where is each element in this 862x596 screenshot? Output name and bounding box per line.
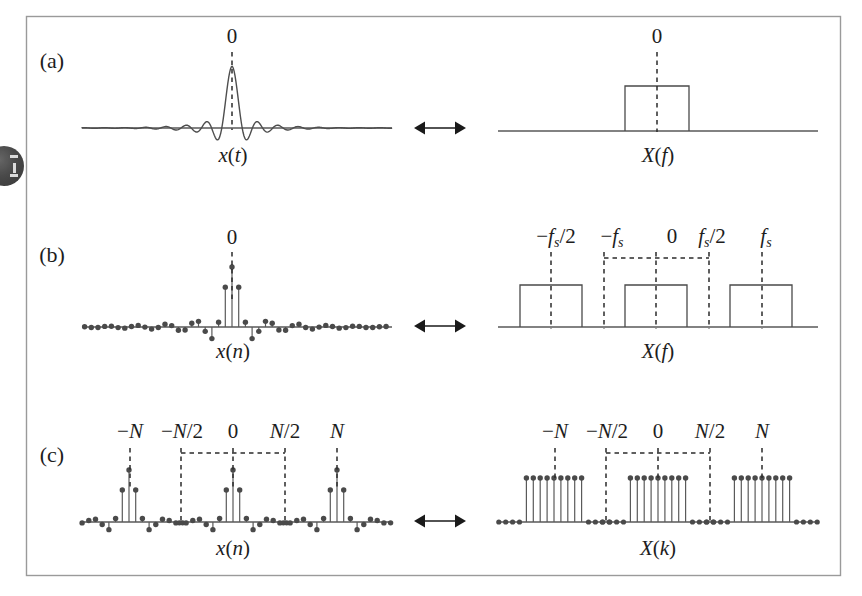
tick-label-3: fs/2	[698, 224, 726, 250]
stem-dot	[115, 325, 120, 330]
periodic-spectrum-rects: −fs−fs/20fs/2fsX(f)	[498, 224, 818, 363]
stem-dot	[780, 475, 785, 480]
stem-dot	[565, 475, 570, 480]
stem-dot	[149, 326, 154, 331]
stem-dot	[257, 522, 262, 527]
stem-dot-zero	[621, 519, 626, 524]
stem-dot	[210, 527, 215, 532]
stem-dot	[160, 517, 165, 522]
continuous-spectrum-rect: 0X(f)	[498, 24, 818, 167]
stem-dot	[176, 328, 181, 333]
dft-spectrum-periodic: −N−N/20N/2NX(k)	[496, 419, 820, 560]
arrow-head-left	[414, 515, 425, 528]
tick-label-2: 0	[228, 419, 239, 443]
stem-dot	[229, 264, 234, 269]
stem-dot-zero	[593, 519, 598, 524]
panel-label-0: (a)	[40, 48, 64, 73]
stem-dot	[153, 522, 158, 527]
stem-dot	[303, 325, 308, 330]
stem-dot	[375, 518, 380, 523]
stem-dot	[190, 518, 195, 523]
stem-dot	[538, 475, 543, 480]
tick-label-1: −N/2	[161, 419, 203, 443]
stem-dot	[109, 324, 114, 329]
stem-dot	[264, 517, 269, 522]
stem-dot	[167, 518, 172, 523]
stem-dot	[773, 475, 778, 480]
stem-dot	[271, 518, 276, 523]
dft-time-sequence-periodic: −N−N/20N/2Nx(n)	[79, 419, 393, 560]
stem-dot	[120, 487, 125, 492]
sampled-time-sequence: 0x(n)	[82, 225, 392, 363]
stem-dot	[558, 475, 563, 480]
tick-label-2: 0	[653, 419, 664, 443]
stem-dot	[388, 520, 393, 525]
stem-dot	[287, 520, 292, 525]
stem-dot	[237, 487, 242, 492]
stem-dot	[354, 527, 359, 532]
stem-dot	[648, 475, 653, 480]
stem-dot	[383, 324, 388, 329]
stem-dot-zero	[718, 519, 723, 524]
stem-dot	[732, 475, 737, 480]
stem-dot	[86, 518, 91, 523]
panel-c: (c)−N−N/20N/2Nx(n)−N−N/20N/2NX(k)	[40, 419, 820, 560]
signal-label-xn: x(n)	[215, 339, 250, 363]
tick-label-4: N	[329, 419, 345, 443]
stem-dot	[204, 522, 209, 527]
stem-dot	[177, 520, 182, 525]
stem-dot	[146, 527, 151, 532]
figure-frame	[27, 17, 841, 576]
stem-dot	[106, 527, 111, 532]
origin-label: 0	[227, 24, 238, 48]
stem-dot	[531, 475, 536, 480]
stem-dot-zero	[690, 519, 695, 524]
figure-canvas: (a)0x(t)0X(f)(b)0x(n)−fs−fs/20fs/2fsX(f)…	[0, 0, 862, 596]
stem-dot	[223, 284, 228, 289]
stem-dot	[350, 324, 355, 329]
tick-label-2: 0	[667, 224, 678, 248]
stem-dot	[368, 517, 373, 522]
signal-label-xt: x(t)	[217, 143, 247, 167]
stem-dot	[752, 475, 757, 480]
stem-dot	[348, 516, 353, 521]
stem-dot	[196, 319, 201, 324]
stem-dot	[363, 325, 368, 330]
tick-label-4: fs	[760, 224, 772, 250]
signal-label-Xk: X(k)	[639, 536, 676, 560]
stem-dot-zero	[704, 519, 709, 524]
stem-dot	[551, 475, 556, 480]
stem-dot	[746, 475, 751, 480]
stem-dot	[197, 517, 202, 522]
stem-dot	[361, 522, 366, 527]
stem-dot	[276, 327, 281, 332]
panel-label-2: (c)	[40, 442, 64, 467]
panel-a: (a)0x(t)0X(f)	[40, 24, 818, 167]
stem-dot	[370, 325, 375, 330]
arrow-head-right	[455, 320, 466, 333]
tick-label-4: N	[754, 419, 770, 443]
stem-dot	[79, 520, 84, 525]
stem-dot	[82, 324, 87, 329]
stem-dot	[328, 487, 333, 492]
stem-dot	[95, 325, 100, 330]
stem-dot	[129, 324, 134, 329]
tick-label-0: −N	[542, 419, 569, 443]
stem-dot	[270, 320, 275, 325]
stem-dot	[182, 327, 187, 332]
stem-dot-zero	[614, 519, 619, 524]
stem-dot	[310, 326, 315, 331]
stem-dot	[89, 325, 94, 330]
arrow-head-left	[414, 320, 425, 333]
stem-dot-zero	[711, 519, 716, 524]
stem-dot	[113, 516, 118, 521]
spectrum-rect-2	[730, 285, 792, 327]
stem-dot	[236, 284, 241, 289]
stem-dot	[676, 475, 681, 480]
stem-dot	[296, 322, 301, 327]
stem-dot	[122, 325, 127, 330]
stem-dot	[243, 319, 248, 324]
stem-dot	[250, 527, 255, 532]
signal-label-Xf: X(f)	[641, 143, 675, 167]
origin-label: 0	[652, 24, 663, 48]
